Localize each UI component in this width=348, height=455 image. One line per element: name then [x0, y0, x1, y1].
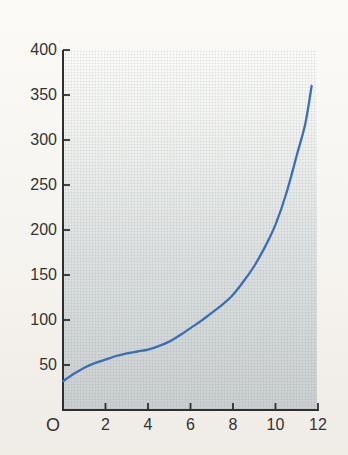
- x-tick-label: 10: [256, 417, 296, 433]
- x-tick-label: 4: [128, 417, 168, 433]
- x-tick-label: 8: [213, 417, 253, 433]
- y-tick-label: 100: [17, 312, 57, 328]
- y-tick-label: 350: [17, 87, 57, 103]
- origin-label: O: [46, 416, 60, 434]
- x-tick-label: 2: [86, 417, 126, 433]
- y-tick-label: 50: [17, 357, 57, 373]
- y-tick-label: 150: [17, 267, 57, 283]
- curve-growth-curve: [63, 86, 312, 381]
- data-curve: [63, 86, 312, 381]
- y-tick-label: 300: [17, 132, 57, 148]
- y-tick-label: 200: [17, 222, 57, 238]
- x-tick-label: 12: [298, 417, 338, 433]
- x-tick-label: 6: [171, 417, 211, 433]
- chart-figure: 5010015020025030035040024681012O: [0, 0, 348, 455]
- y-tick-label: 250: [17, 177, 57, 193]
- axes: [62, 50, 319, 411]
- y-tick-label: 400: [17, 42, 57, 58]
